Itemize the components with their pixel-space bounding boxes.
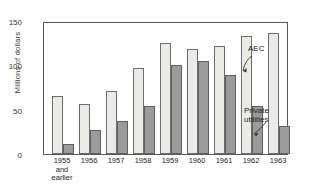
bar-private-utilities bbox=[279, 126, 290, 154]
bar-aec bbox=[241, 36, 252, 154]
bar-aec bbox=[187, 49, 198, 154]
bar-private-utilities bbox=[117, 121, 128, 154]
y-tick-label-100: 100 bbox=[0, 62, 22, 71]
bar-group bbox=[241, 23, 263, 154]
bar-private-utilities bbox=[90, 130, 101, 154]
bar-private-utilities bbox=[144, 106, 155, 154]
bar-aec bbox=[52, 96, 63, 154]
x-axis-labels: 1955 and earlier 1956 1957 1958 1959 196… bbox=[43, 157, 288, 191]
y-tick-label-0: 0 bbox=[0, 151, 22, 160]
bars-layer bbox=[44, 23, 287, 154]
bar-aec bbox=[160, 43, 171, 154]
bar-private-utilities bbox=[225, 75, 236, 154]
bar-private-utilities bbox=[63, 144, 74, 154]
bar-private-utilities bbox=[171, 65, 182, 154]
bar-group bbox=[106, 23, 128, 154]
bar-aec bbox=[106, 91, 117, 154]
bar-chart: Millions of dollars 150 100 50 0 bbox=[0, 0, 312, 193]
bar-aec bbox=[268, 33, 279, 154]
bar-group bbox=[160, 23, 182, 154]
annotation-private-utilities: Private utilities bbox=[244, 106, 269, 124]
bar-group bbox=[214, 23, 236, 154]
y-tick-label-150: 150 bbox=[0, 18, 22, 27]
x-tick-label: 1963 bbox=[261, 157, 295, 166]
bar-aec bbox=[133, 68, 144, 154]
annotation-aec: AEC bbox=[248, 44, 264, 53]
bar-group bbox=[52, 23, 74, 154]
bar-group bbox=[187, 23, 209, 154]
bar-aec bbox=[79, 104, 90, 154]
bar-group bbox=[268, 23, 290, 154]
bar-group bbox=[133, 23, 155, 154]
bar-private-utilities bbox=[198, 61, 209, 154]
bar-group bbox=[79, 23, 101, 154]
bar-aec bbox=[214, 46, 225, 154]
y-tick-label-50: 50 bbox=[0, 106, 22, 115]
